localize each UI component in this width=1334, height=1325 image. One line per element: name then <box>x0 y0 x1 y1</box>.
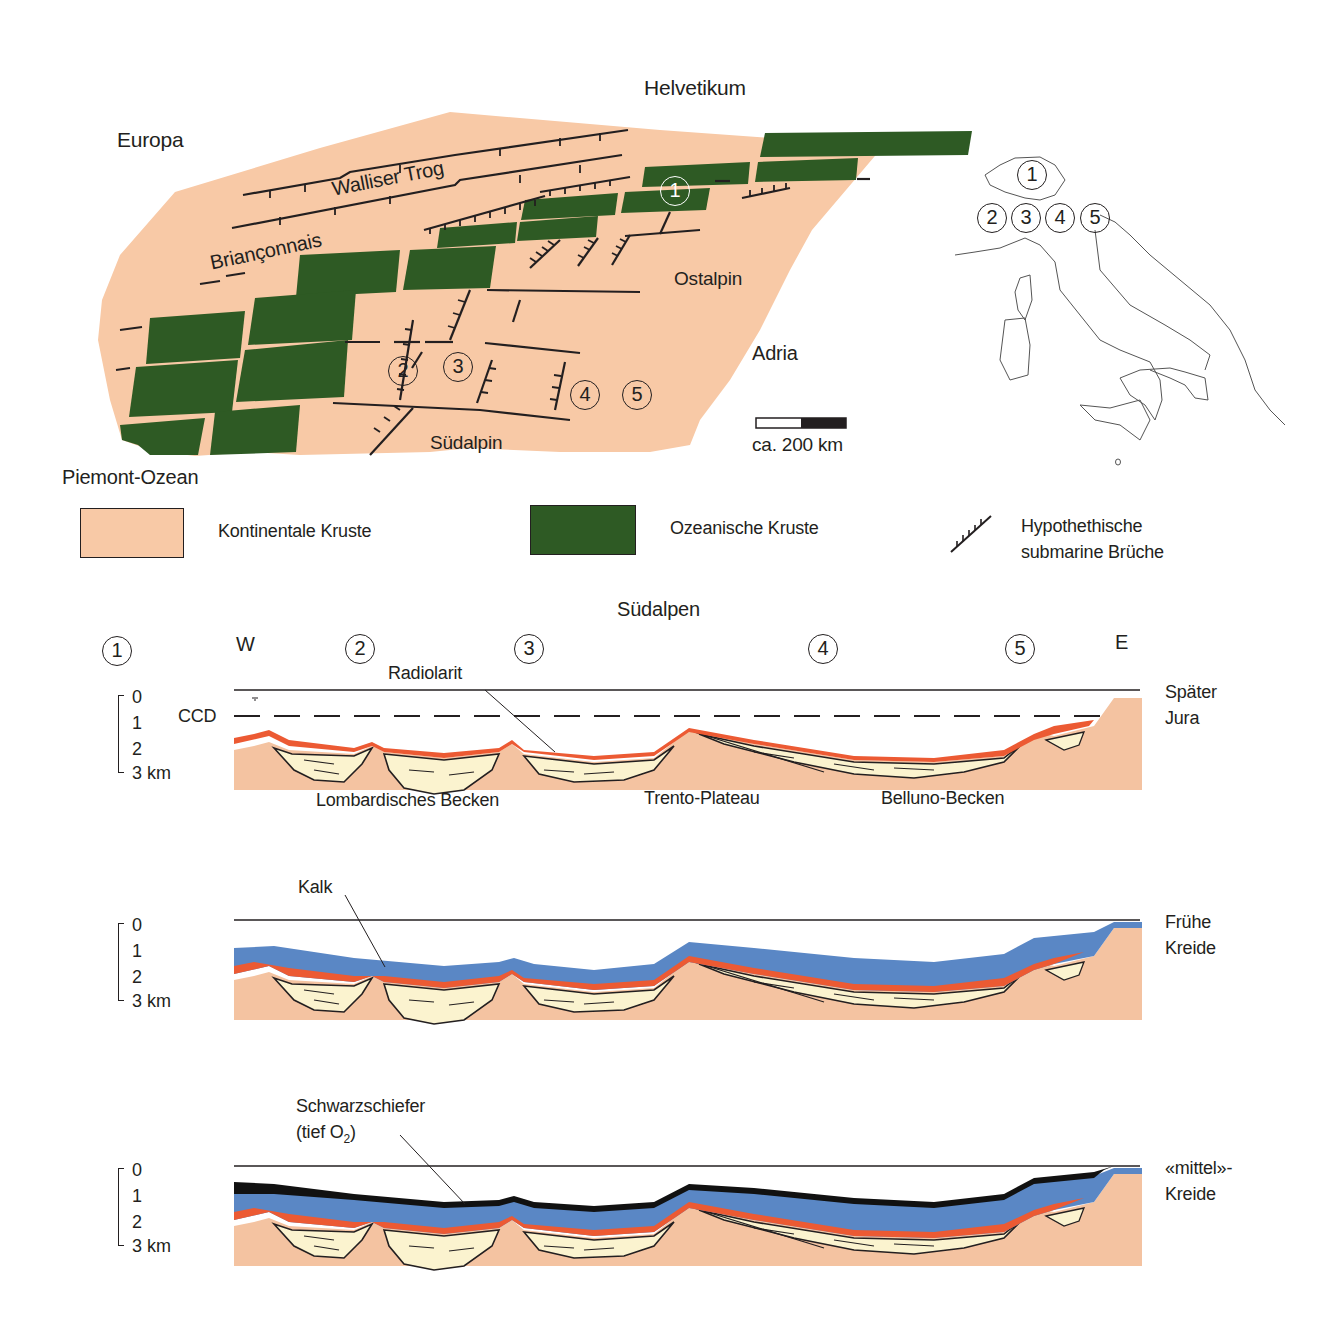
schwarzschiefer-callout-line1: Schwarzschiefer <box>296 1096 425 1117</box>
schwarzschiefer-callout-line2: (tief O2) <box>296 1122 356 1146</box>
basin-belluno-becken: Belluno-Becken <box>881 788 1004 809</box>
depth-axis-2: 0 1 2 3 km <box>112 914 172 1010</box>
kalk-callout: Kalk <box>298 877 332 898</box>
section-mittel-kreide <box>234 1166 1142 1270</box>
section-fruehe-kreide <box>234 920 1142 1024</box>
basin-lombardisches-becken: Lombardisches Becken <box>316 790 499 811</box>
radiolarit-leader <box>485 690 555 752</box>
section-spaeter-jura <box>234 690 1142 794</box>
period-spaeter-jura-line2: Jura <box>1165 708 1199 729</box>
depth-axis-1: 0 1 2 3 km <box>112 686 172 782</box>
radiolarit-callout: Radiolarit <box>388 663 462 684</box>
period-mittel-kreide-line1: «mittel»- <box>1165 1158 1232 1179</box>
schwarzschiefer-leader <box>400 1135 465 1204</box>
period-mittel-kreide-line2: Kreide <box>1165 1184 1216 1205</box>
kalk-leader <box>345 895 385 967</box>
sections-graphic <box>0 0 1334 1325</box>
ccd-label: CCD <box>178 706 216 727</box>
depth-axis-3: 0 1 2 3 km <box>112 1159 172 1255</box>
period-spaeter-jura-line1: Später <box>1165 682 1217 703</box>
period-fruehe-kreide-line1: Frühe <box>1165 912 1211 933</box>
period-fruehe-kreide-line2: Kreide <box>1165 938 1216 959</box>
basin-trento-plateau: Trento-Plateau <box>644 788 760 809</box>
